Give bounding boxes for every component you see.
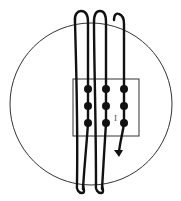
dot-grid bbox=[84, 85, 128, 127]
dot bbox=[120, 102, 128, 110]
dot bbox=[84, 102, 92, 110]
current-arrowhead-icon bbox=[114, 150, 123, 157]
back-strand-2 bbox=[94, 22, 96, 184]
coil-wire bbox=[75, 11, 124, 193]
dot bbox=[102, 102, 110, 110]
coil-diagram: I bbox=[0, 0, 181, 201]
dot bbox=[102, 85, 110, 93]
bottom-loop-1 bbox=[77, 184, 84, 193]
back-strand-1 bbox=[75, 22, 77, 184]
dot bbox=[102, 119, 110, 127]
current-label: I bbox=[114, 113, 117, 123]
dot bbox=[84, 85, 92, 93]
dot bbox=[84, 119, 92, 127]
bottom-loop-2 bbox=[96, 184, 103, 193]
top-loop-3 bbox=[114, 14, 124, 89]
dot bbox=[120, 119, 128, 127]
dot bbox=[120, 85, 128, 93]
